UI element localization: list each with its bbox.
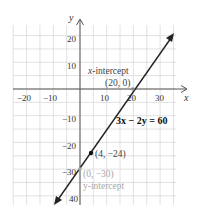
y-tick-label: −20 bbox=[62, 141, 77, 151]
x-intercept-point bbox=[131, 87, 135, 91]
x-tick-label: −20 bbox=[17, 93, 32, 103]
point-4-neg24 bbox=[89, 151, 93, 155]
y-intercept-title: y-intercept bbox=[83, 181, 125, 191]
y-tick-label: 40 bbox=[69, 194, 79, 204]
y-intercept-point-label: (0, −30) bbox=[83, 169, 114, 180]
y-intercept-point bbox=[78, 167, 82, 171]
y-tick-label: 20 bbox=[67, 34, 77, 44]
chart-canvas: x y −20 −10 10 20 30 20 10 −10 −20 −30 4… bbox=[0, 0, 203, 208]
x-intercept-title: x-intercept bbox=[87, 66, 129, 76]
line-arrow-up-icon bbox=[166, 33, 174, 42]
x-axis-label: x bbox=[183, 92, 189, 103]
x-intercept-point-label: (20, 0) bbox=[105, 78, 130, 89]
x-tick-label: −10 bbox=[43, 93, 58, 103]
line-arrow-down-icon bbox=[54, 196, 62, 205]
y-tick-label: −10 bbox=[62, 114, 77, 124]
x-tick-label: 10 bbox=[100, 93, 110, 103]
point-label: (4, −24) bbox=[95, 149, 126, 160]
x-tick-label: 30 bbox=[155, 93, 165, 103]
equation-label: 3x − 2y = 60 bbox=[116, 115, 167, 126]
y-axis-label: y bbox=[68, 12, 74, 23]
y-tick-label: 10 bbox=[67, 61, 77, 71]
